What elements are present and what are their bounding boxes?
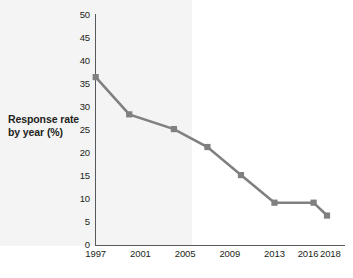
data-point-marker [310,200,316,206]
plot-area: 05101520253035404550 1997200120052009201… [0,0,353,278]
data-point-marker [93,74,99,80]
data-point-marker [324,212,330,218]
series-line-response-rate [96,77,327,215]
series-layer [0,0,353,278]
data-point-marker [271,200,277,206]
response-rate-line-chart: Response rate by year (%) 05101520253035… [0,0,353,278]
series-markers [93,74,331,219]
data-point-marker [204,144,210,150]
data-point-marker [126,111,132,117]
data-point-marker [171,126,177,132]
data-point-marker [238,172,244,178]
